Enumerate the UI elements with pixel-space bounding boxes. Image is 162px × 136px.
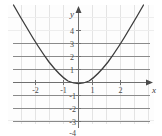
y-tick-label-3: 3 [70,40,74,49]
y-tick-label-2: 2 [70,53,74,62]
y-tick-label--2: -2 [69,105,76,114]
y-tick-label--4: -4 [69,129,76,136]
x-tick-label-2: 2 [119,86,123,95]
graph-figure: 4 3 2 1 -1 -2 -3 -4 -2 -1 1 2 y x [0,0,162,136]
x-axis-label: x [151,85,156,95]
y-tick-label--1: -1 [69,92,76,101]
x-tick-label--2: -2 [32,86,39,95]
x-tick-label--1: -1 [60,86,67,95]
plot-background [8,5,154,124]
y-tick-label-1: 1 [70,66,74,75]
x-tick-label-1: 1 [91,86,95,95]
coordinate-plane-chart: 4 3 2 1 -1 -2 -3 -4 -2 -1 1 2 y x [0,0,162,136]
y-tick-label--3: -3 [69,118,76,127]
y-axis-label: y [69,9,74,19]
y-tick-label-4: 4 [70,27,74,36]
